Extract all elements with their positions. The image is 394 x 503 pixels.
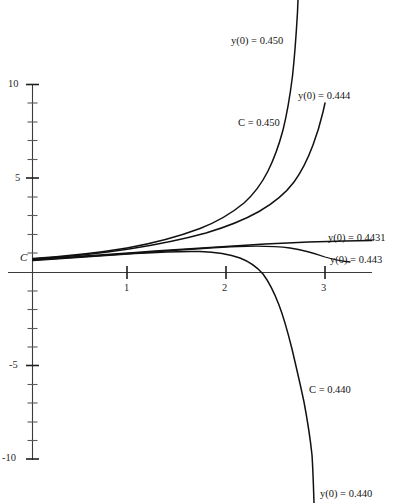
annotation-y0-444: y(0) = 0.444 — [298, 91, 350, 102]
x-tick-label-3: 3 — [321, 283, 326, 294]
plot-figure: 10 5 -5 -10 1 2 3 C y(0) = 0.450 C = 0.4… — [0, 0, 394, 503]
y-tick-label-minus-5: -5 — [9, 360, 18, 371]
x-tick-label-1: 1 — [124, 283, 129, 294]
curve-y0-440 — [33, 251, 314, 503]
origin-c-label: C — [20, 252, 27, 263]
annotation-y0-440: y(0) = 0.440 — [320, 489, 372, 500]
y-tick-label-10: 10 — [8, 79, 19, 90]
annotation-c-450: C = 0.450 — [238, 118, 280, 129]
annotation-y0-4431: y(0) = 0.4431 — [328, 233, 386, 244]
x-tick-label-2: 2 — [222, 283, 227, 294]
annotation-y0-450: y(0) = 0.450 — [231, 36, 283, 47]
y-tick-label-5: 5 — [15, 173, 20, 184]
y-tick-label-minus-10: -10 — [2, 453, 16, 464]
annotation-y0-443: y(0) = 0.443 — [330, 255, 382, 266]
plot-canvas — [0, 0, 394, 503]
annotation-c-440: C = 0.440 — [309, 385, 351, 396]
